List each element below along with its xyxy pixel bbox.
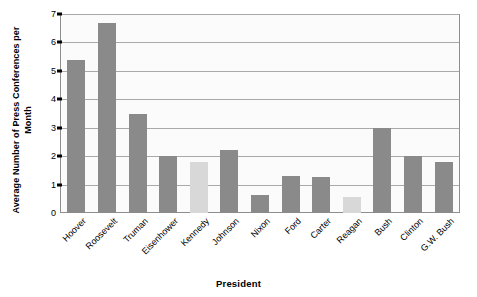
- bars-group: [61, 15, 459, 213]
- bar: [404, 156, 422, 213]
- bar: [343, 197, 361, 213]
- bar: [190, 162, 208, 213]
- y-axis-tick-marks: [30, 14, 62, 213]
- x-axis-title: President: [0, 278, 477, 289]
- x-axis-tick-label: Bush: [373, 216, 395, 238]
- bar: [159, 156, 177, 213]
- x-axis-tick-label: Kennedy: [179, 216, 211, 248]
- bar: [129, 114, 147, 214]
- x-axis-tick-label: Hoover: [61, 216, 89, 244]
- bar-chart: Average Number of Press Conferences per …: [0, 0, 477, 297]
- bar: [282, 176, 300, 213]
- x-axis-tick-label: Carter: [309, 216, 334, 241]
- bar: [67, 60, 85, 214]
- bar: [435, 162, 453, 213]
- x-axis-tick-label: Ford: [283, 216, 303, 236]
- x-axis-tick-labels: HooverRooseveltTrumanEisenhowerKennedyJo…: [61, 214, 459, 274]
- bar: [373, 128, 391, 213]
- x-axis-tick-label: Johnson: [210, 216, 241, 247]
- bar: [251, 195, 269, 213]
- bar: [98, 23, 116, 213]
- bar: [312, 177, 330, 213]
- x-axis-tick-label: Nixon: [249, 216, 272, 239]
- x-axis-tick-label: Reagan: [335, 216, 364, 245]
- bar: [220, 150, 238, 213]
- x-axis-tick-label: Roosevelt: [84, 216, 119, 251]
- x-axis-tick-label: Truman: [121, 216, 150, 245]
- x-axis-tick-label: Clinton: [398, 216, 425, 243]
